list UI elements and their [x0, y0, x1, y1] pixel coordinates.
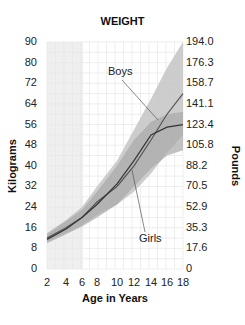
- girls-annotation: Girls: [139, 232, 162, 244]
- plot-area: BoysGirls: [0, 0, 245, 325]
- boys-annotation: Boys: [108, 65, 133, 77]
